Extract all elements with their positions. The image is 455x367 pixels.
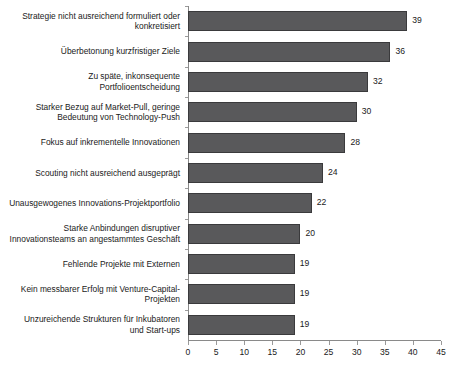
x-axis-tick-label: 15 (268, 347, 278, 357)
x-axis-tick (300, 341, 301, 345)
y-axis-tick (185, 310, 188, 311)
y-axis-tick (185, 219, 188, 220)
category-label-line: und Start-ups (24, 325, 180, 336)
bar-value-label: 20 (305, 228, 315, 238)
bar (188, 315, 295, 335)
bar-value-label: 19 (300, 319, 310, 329)
x-axis-tick-label: 45 (436, 347, 446, 357)
x-axis-tick (272, 341, 273, 345)
bar (188, 133, 345, 153)
category-label: Scouting nicht ausreichend ausgeprägt (0, 168, 180, 179)
bar (188, 254, 295, 274)
category-label: Unzureichende Strukturen für Inkubatoren… (0, 314, 180, 335)
category-label-line: Überbetonung kurzfristiger Ziele (61, 46, 180, 57)
bar (188, 193, 312, 213)
x-axis-tick (357, 341, 358, 345)
y-axis-tick (185, 158, 188, 159)
category-label: Starker Bezug auf Market-Pull, geringeBe… (0, 102, 180, 123)
category-label: Fehlende Projekte mit Externen (0, 259, 180, 270)
x-axis-tick-label: 10 (239, 347, 249, 357)
y-axis-tick (185, 6, 188, 7)
x-axis-tick (216, 341, 217, 345)
bar (188, 102, 357, 122)
bar (188, 11, 407, 31)
bar-value-label: 30 (362, 106, 372, 116)
category-label-line: konkretisiert (22, 21, 180, 32)
category-label-line: Kein messbarer Erfolg mit Venture-Capita… (21, 284, 180, 295)
x-axis-tick-label: 25 (324, 347, 334, 357)
plot-area: 3936323028242220191919 05101520253035404… (188, 6, 441, 340)
y-axis-tick (185, 97, 188, 98)
category-label-line: Zu späte, inkonsequente (88, 71, 180, 82)
y-axis-tick (185, 67, 188, 68)
category-axis-labels: Strategie nicht ausreichend formuliert o… (0, 0, 186, 340)
category-label: Überbetonung kurzfristiger Ziele (0, 46, 180, 57)
bar (188, 72, 368, 92)
x-axis-tick-label: 40 (408, 347, 418, 357)
bar (188, 224, 300, 244)
bar (188, 284, 295, 304)
bar-value-label: 36 (395, 46, 405, 56)
bar-value-label: 32 (373, 76, 383, 86)
category-label-line: Unzureichende Strukturen für Inkubatoren (24, 314, 180, 325)
bar-chart: Strategie nicht ausreichend formuliert o… (0, 0, 455, 367)
bar-value-label: 24 (328, 167, 338, 177)
y-axis-tick (185, 279, 188, 280)
x-axis-tick-label: 5 (214, 347, 219, 357)
category-label-line: Starke Anbindungen disruptiver (10, 223, 180, 234)
category-label-line: Innovationsteams an angestammtes Geschäf… (10, 234, 180, 245)
bar-value-label: 19 (300, 288, 310, 298)
y-axis-tick (185, 188, 188, 189)
x-axis-tick (244, 341, 245, 345)
x-axis-tick (329, 341, 330, 345)
x-axis-tick (413, 341, 414, 345)
category-label-line: Unausgewogenes Innovations-Projektportfo… (9, 198, 180, 209)
x-axis-line (188, 340, 441, 341)
category-label-line: Fehlende Projekte mit Externen (63, 259, 180, 270)
x-axis-tick-label: 35 (380, 347, 390, 357)
category-label-line: Portfolioentscheidung (88, 82, 180, 93)
bar-value-label: 39 (412, 15, 422, 25)
y-axis-tick (185, 36, 188, 37)
category-label: Unausgewogenes Innovations-Projektportfo… (0, 198, 180, 209)
category-label: Kein messbarer Erfolg mit Venture-Capita… (0, 284, 180, 305)
x-axis-tick (385, 341, 386, 345)
y-axis-tick (185, 127, 188, 128)
category-label: Zu späte, inkonsequentePortfolioentschei… (0, 71, 180, 92)
bar (188, 42, 390, 62)
bar (188, 163, 323, 183)
x-axis-tick-label: 30 (352, 347, 362, 357)
bar-value-label: 22 (317, 197, 327, 207)
bar-value-label: 28 (350, 137, 360, 147)
x-axis-tick (441, 341, 442, 345)
category-label-line: Fokus auf inkrementelle Innovationen (41, 137, 180, 148)
category-label: Fokus auf inkrementelle Innovationen (0, 137, 180, 148)
x-axis-tick (188, 341, 189, 345)
y-axis-tick (185, 249, 188, 250)
bar-value-label: 19 (300, 258, 310, 268)
category-label-line: Scouting nicht ausreichend ausgeprägt (35, 168, 180, 179)
x-axis-tick-label: 20 (296, 347, 306, 357)
category-label: Strategie nicht ausreichend formuliert o… (0, 11, 180, 32)
x-axis-tick-label: 0 (186, 347, 191, 357)
category-label: Starke Anbindungen disruptiverInnovation… (0, 223, 180, 244)
category-label-line: Strategie nicht ausreichend formuliert o… (22, 11, 180, 22)
category-label-line: Bedeutung von Technology-Push (36, 112, 180, 123)
category-label-line: Starker Bezug auf Market-Pull, geringe (36, 102, 180, 113)
category-label-line: Projekten (21, 294, 180, 305)
